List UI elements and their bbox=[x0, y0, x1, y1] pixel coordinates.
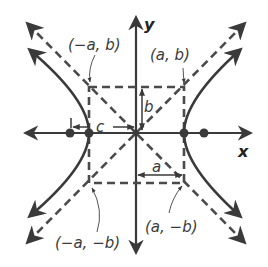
vertex-left bbox=[85, 129, 94, 138]
vertex-right bbox=[180, 129, 189, 138]
point-label-lower-left: (−a, −b) bbox=[55, 234, 120, 252]
center-point bbox=[133, 130, 139, 136]
b-label: b bbox=[144, 98, 154, 116]
x-axis-label: x bbox=[237, 142, 249, 161]
c-label: c bbox=[96, 118, 105, 136]
point-label-lower-right: (a, −b) bbox=[145, 218, 198, 236]
point-label-upper-right: (a, b) bbox=[150, 46, 190, 64]
point-label-upper-left: (−a, b) bbox=[68, 36, 121, 54]
hyperbola-diagram: c b a y x (−a, b) (a, b) (−a, −b) (a, −b… bbox=[0, 0, 268, 267]
a-label: a bbox=[152, 158, 161, 176]
focus-left bbox=[66, 129, 75, 138]
focus-right bbox=[200, 129, 209, 138]
y-axis-label: y bbox=[144, 15, 155, 34]
